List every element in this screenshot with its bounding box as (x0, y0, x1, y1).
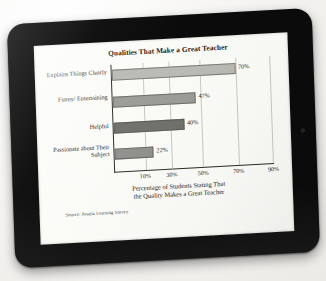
category-label: Explains Things Clearly (43, 69, 107, 79)
bar-chart: Qualities That Make a Great Teacher Expl… (34, 32, 295, 245)
source-note: Source: Avanta Learning Survey (66, 201, 286, 218)
gridline (235, 58, 240, 165)
plot-area: 70% 47% 40% 22% (110, 56, 274, 173)
bar-value-label: 70% (238, 62, 250, 70)
x-tick-label: 90% (268, 166, 279, 173)
camera-dot-icon (301, 128, 305, 132)
bar-value-label: 22% (156, 146, 168, 154)
bar-passionate-about-their-subject[interactable] (114, 147, 153, 160)
x-tick-label: 30% (166, 171, 177, 178)
x-tick-label: 10% (140, 173, 151, 180)
category-axis-labels: Explains Things Clearly Funny/ Entertain… (43, 65, 113, 177)
screenshot-canvas: Qualities That Make a Great Teacher Expl… (0, 0, 326, 281)
bar-value-label: 47% (198, 91, 210, 99)
bar-explains-things-clearly[interactable] (112, 63, 236, 81)
gridline (200, 60, 205, 167)
x-tick-label: 50% (198, 170, 209, 177)
bar-value-label: 40% (187, 118, 199, 126)
gridline (169, 62, 174, 169)
bar-helpful[interactable] (113, 119, 184, 134)
tablet-device: Qualities That Make a Great Teacher Expl… (7, 8, 320, 268)
bar-funny-entertaining[interactable] (113, 92, 196, 107)
tablet-screen[interactable]: Qualities That Make a Great Teacher Expl… (34, 32, 295, 245)
category-label: Helpful (45, 123, 109, 133)
category-label: Funny/ Entertaining (44, 94, 108, 104)
plot-area-wrapper: Explains Things Clearly Funny/ Entertain… (43, 56, 284, 177)
x-axis-title: Percentage of Students Stating That the … (73, 177, 285, 205)
gridline (270, 56, 275, 163)
x-tick-label: 70% (233, 168, 244, 175)
category-label: Passionate about Their Subject (45, 144, 109, 161)
